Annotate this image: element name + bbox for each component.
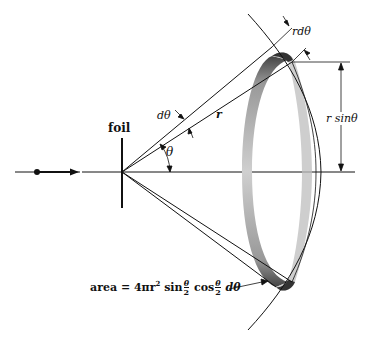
incident-particle-icon (34, 169, 79, 176)
r-sin-theta-label: r sinθ (326, 112, 358, 125)
area-prefix: area = 4πr (90, 281, 155, 294)
cone-rays (122, 47, 292, 287)
r-dtheta-label: rdθ (292, 26, 311, 37)
area-suffix: dθ (226, 281, 241, 294)
frac-num: θ (215, 279, 221, 287)
frac-theta-over-2-a: θ2 (184, 279, 190, 296)
dtheta-angle-marker (175, 110, 193, 138)
area-formula: area = 4πr2 sinθ2 cosθ2 dθ (90, 279, 241, 296)
scattering-diagram: foil rdθ dθ r θ r sinθ area = 4πr2 sinθ2… (0, 0, 366, 341)
frac-den: 2 (215, 287, 221, 296)
frac-den: 2 (184, 287, 190, 296)
area-exponent: 2 (155, 279, 160, 288)
frac-theta-over-2-b: θ2 (215, 279, 221, 296)
frac-num: θ (184, 279, 190, 287)
r-label: r (216, 109, 222, 120)
theta-label: θ (166, 146, 173, 158)
dtheta-label: dθ (157, 110, 171, 121)
area-cos: cos (194, 281, 214, 294)
area-sin: sin (164, 281, 182, 294)
foil-label: foil (108, 122, 130, 134)
